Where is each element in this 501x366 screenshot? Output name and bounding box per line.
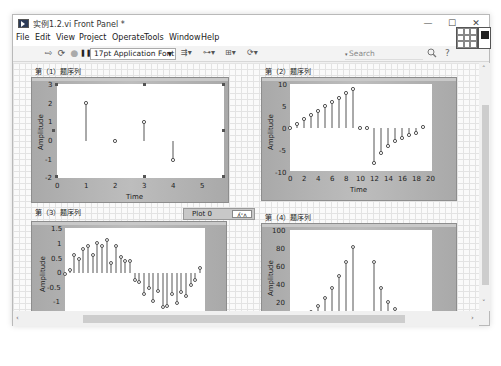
distribute-objects-button[interactable]: ⊶▾: [203, 48, 215, 60]
chevron-down-icon: ▼: [167, 49, 172, 59]
svg-text:3: 3: [48, 81, 52, 89]
resize-objects-button[interactable]: ⊞▾: [225, 48, 236, 60]
svg-text:-1: -1: [45, 156, 52, 164]
svg-text:8: 8: [344, 175, 348, 183]
graph-2-frame[interactable]: 1050-5-10 02468 101214161820 Time Amplit…: [261, 77, 457, 201]
svg-text:16: 16: [398, 175, 407, 183]
labview-app-icon: [18, 19, 29, 28]
scroll-up-icon[interactable]: ˄: [482, 65, 486, 73]
graph-1-plot: 3210-1-2 012345 Time Amplitude: [32, 78, 230, 204]
menu-help[interactable]: Help: [201, 33, 219, 42]
menu-operate[interactable]: Operate: [112, 33, 145, 42]
graph-4-label: 第（4）题序列: [265, 212, 311, 222]
toolbar: ⇨ ⟳ ● ❚❚ 17pt Application Font ▼ ⇶▾ ⊶▾ ⊞…: [13, 46, 489, 62]
abort-execution-icon[interactable]: ●: [69, 48, 80, 59]
vertical-scrollbar[interactable]: ˄ ˅: [479, 63, 490, 311]
svg-text:80: 80: [276, 245, 285, 253]
align-objects-button[interactable]: ⇶▾: [181, 48, 192, 60]
svg-text:2: 2: [302, 175, 306, 183]
svg-text:0: 0: [288, 175, 292, 183]
graph-2-label: 第（2）题序列: [265, 66, 311, 76]
horizontal-scroll-thumb[interactable]: [83, 315, 405, 323]
graph-3-ylabel: Amplitude: [39, 256, 47, 292]
vertical-scroll-thumb[interactable]: [482, 105, 489, 285]
svg-text:0.5: 0.5: [51, 255, 62, 263]
svg-text:20: 20: [426, 175, 435, 183]
svg-text:60: 60: [276, 263, 285, 271]
graph-4-ylabel: Amplitude: [267, 260, 275, 296]
search-placeholder: Search: [349, 49, 375, 58]
vi-icon[interactable]: [478, 27, 491, 49]
search-input[interactable]: ▾ Search: [345, 48, 423, 60]
svg-text:12: 12: [370, 175, 379, 183]
svg-text:10: 10: [356, 175, 365, 183]
svg-text:2: 2: [113, 182, 117, 190]
run-continuously-icon[interactable]: ⟳: [56, 48, 67, 59]
graph-1-xlabel: Time: [125, 193, 143, 201]
graph-2-ylabel: Amplitude: [267, 114, 275, 150]
svg-text:40: 40: [276, 281, 285, 289]
plot-legend-label: Plot 0: [192, 210, 212, 218]
minimize-button[interactable]: —: [417, 17, 439, 30]
search-icon[interactable]: [427, 48, 437, 58]
menu-file[interactable]: File: [16, 33, 29, 42]
front-panel-window: 实例1.2.vi Front Panel * — ☐ ✕ File Edit V…: [12, 14, 490, 326]
plot-legend[interactable]: Plot 0 ʎᵛᴧ: [183, 208, 255, 220]
svg-text:-1: -1: [53, 298, 60, 306]
graph-1-frame[interactable]: 3210-1-2 012345 Time Amplitude: [31, 77, 229, 203]
svg-text:0: 0: [48, 137, 52, 145]
svg-text:6: 6: [330, 175, 335, 183]
svg-text:100: 100: [272, 227, 285, 235]
plot-style-swatch-icon[interactable]: ʎᵛᴧ: [232, 210, 252, 218]
graph-2-plot: 1050-5-10 02468 101214161820 Time Amplit…: [262, 78, 458, 202]
context-help-icon[interactable]: ?: [445, 48, 450, 58]
svg-text:-2: -2: [45, 174, 52, 182]
graph-3-label: 第（3）题序列: [35, 207, 81, 217]
run-arrow-icon[interactable]: ⇨: [43, 48, 54, 59]
svg-text:4: 4: [171, 182, 176, 190]
graph-2-xlabel: Time: [349, 186, 367, 194]
connector-pane[interactable]: [456, 27, 478, 49]
menu-project[interactable]: Project: [79, 33, 106, 42]
svg-text:0: 0: [55, 182, 59, 190]
svg-text:18: 18: [412, 175, 421, 183]
svg-text:5: 5: [282, 103, 286, 111]
horizontal-scrollbar[interactable]: ‹ ›: [13, 311, 479, 326]
svg-text:1: 1: [84, 182, 88, 190]
window-title: 实例1.2.vi Front Panel *: [33, 18, 125, 29]
graph-1-label: 第（1）题序列: [35, 66, 81, 76]
svg-text:1: 1: [48, 118, 52, 126]
reorder-button[interactable]: ⟳▾: [247, 48, 258, 60]
menu-window[interactable]: Window: [169, 33, 201, 42]
svg-text:4: 4: [316, 175, 321, 183]
font-select-value: 17pt Application Font: [94, 49, 174, 58]
graph-1-ylabel: Amplitude: [37, 114, 45, 150]
svg-text:-0.5: -0.5: [47, 284, 61, 292]
graph-4-plot: 100806040200 02468 101214161820 Time Amp…: [262, 224, 458, 311]
svg-text:0: 0: [57, 269, 61, 277]
svg-text:0: 0: [282, 125, 286, 133]
menu-bar: File Edit View Project Operate Tools Win…: [13, 32, 489, 46]
scroll-right-icon[interactable]: ›: [471, 314, 474, 322]
front-panel-canvas[interactable]: 第（1）题序列 3210-1-2 012345 Time Amplitude: [13, 63, 479, 311]
svg-text:5: 5: [200, 182, 204, 190]
menu-view[interactable]: View: [56, 33, 75, 42]
svg-text:1.5: 1.5: [51, 225, 62, 233]
svg-text:2: 2: [48, 100, 52, 108]
svg-text:10: 10: [278, 81, 287, 89]
svg-text:1: 1: [57, 240, 61, 248]
scroll-left-icon[interactable]: ‹: [16, 314, 19, 322]
menu-edit[interactable]: Edit: [35, 33, 51, 42]
graph-3-plot: 1.510.50 -0.5-1-1.5 030 Time Amplitude: [32, 222, 228, 311]
scroll-down-icon[interactable]: ˅: [482, 299, 486, 307]
svg-text:14: 14: [384, 175, 393, 183]
graph-3-frame[interactable]: 1.510.50 -0.5-1-1.5 030 Time Amplitude: [31, 221, 227, 311]
svg-text:20: 20: [276, 299, 285, 307]
title-bar[interactable]: 实例1.2.vi Front Panel * — ☐ ✕: [13, 15, 489, 32]
menu-tools[interactable]: Tools: [144, 33, 164, 42]
graph-4-frame[interactable]: 100806040200 02468 101214161820 Time Amp…: [261, 223, 457, 311]
svg-text:-5: -5: [279, 147, 286, 155]
text-settings-select[interactable]: 17pt Application Font ▼: [90, 48, 176, 60]
svg-text:-10: -10: [275, 169, 286, 177]
svg-text:3: 3: [142, 182, 146, 190]
